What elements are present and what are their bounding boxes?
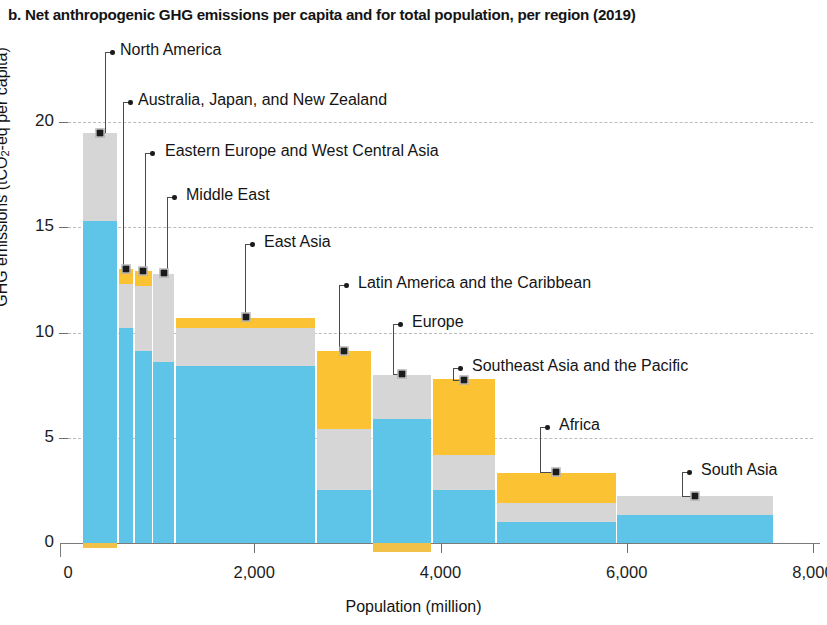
- bar-top-marker: [397, 370, 406, 379]
- bar-top-marker: [460, 376, 469, 385]
- callout-label[interactable]: Latin America and the Caribbean: [358, 274, 591, 292]
- bar-middle-east[interactable]: [153, 122, 174, 543]
- leader-line-vertical: [339, 285, 340, 351]
- bar-top-marker: [122, 265, 131, 274]
- leader-line-vertical: [682, 472, 683, 496]
- bar-segment-grey: [135, 286, 152, 351]
- leader-line-vertical: [123, 102, 124, 269]
- bar-southeast-asia-and-the-pacific[interactable]: [433, 122, 496, 543]
- y-axis-title: GHG emissions (tCO2-eq per capita): [0, 0, 11, 357]
- x-tick-label: 4,000: [420, 563, 461, 582]
- bar-segment-grey: [317, 429, 371, 490]
- callout-dot: [172, 195, 177, 200]
- bar-top-marker: [691, 492, 700, 501]
- callout-label[interactable]: Africa: [559, 416, 600, 434]
- bar-top-marker: [241, 313, 250, 322]
- callout-dot: [687, 470, 692, 475]
- y-tick-label: 15: [8, 216, 54, 236]
- callout-dot: [344, 283, 349, 288]
- x-tick-label: 2,000: [234, 563, 275, 582]
- bar-top-marker: [552, 468, 561, 477]
- bar-segment-blue: [497, 522, 615, 543]
- y-tick-mark: [59, 227, 68, 228]
- bar-segment-negative: [373, 543, 431, 552]
- y-tick-label: 0: [8, 532, 54, 552]
- leader-line-vertical: [453, 368, 454, 380]
- callout-label[interactable]: Australia, Japan, and New Zealand: [138, 91, 387, 109]
- bar-segment-grey: [83, 133, 117, 221]
- y-tick-mark: [59, 438, 68, 439]
- leader-line-vertical: [245, 244, 246, 317]
- bar-segment-grey: [176, 328, 315, 366]
- bar-segment-blue: [153, 362, 174, 543]
- bar-segment-blue: [317, 490, 371, 543]
- callout-dot: [398, 322, 403, 327]
- callout-dot: [458, 366, 463, 371]
- plot-area: [68, 122, 813, 543]
- callout-dot: [128, 100, 133, 105]
- leader-line-vertical: [540, 427, 541, 472]
- callout-label[interactable]: Europe: [412, 313, 464, 331]
- bar-segment-grey: [153, 274, 174, 362]
- callout-dot: [150, 151, 155, 156]
- leader-line-vertical: [145, 153, 146, 271]
- bar-segment-yellow: [433, 379, 496, 455]
- bar-top-marker: [139, 267, 148, 276]
- leader-line-vertical: [393, 324, 394, 374]
- bar-segment-grey: [497, 503, 615, 522]
- y-tick-label: 5: [8, 427, 54, 447]
- callout-dot: [545, 425, 550, 430]
- bar-segment-blue: [617, 515, 773, 543]
- x-tick-label: 8,000: [792, 563, 827, 582]
- leader-line-vertical: [167, 197, 168, 273]
- axis-corner: [60, 543, 61, 557]
- y-tick-label: 20: [8, 111, 54, 131]
- bar-eastern-europe-and-west-central-asia[interactable]: [135, 122, 152, 543]
- bar-top-marker: [159, 269, 168, 278]
- callout-dot: [250, 242, 255, 247]
- callout-label[interactable]: East Asia: [264, 233, 331, 251]
- bar-segment-yellow: [317, 351, 371, 429]
- chart-figure: b. Net anthropogenic GHG emissions per c…: [0, 0, 827, 625]
- callout-label[interactable]: South Asia: [701, 461, 778, 479]
- callout-label[interactable]: Southeast Asia and the Pacific: [472, 357, 688, 375]
- bar-segment-blue: [135, 351, 152, 543]
- bar-segment-blue: [433, 490, 496, 543]
- bar-segment-blue: [176, 366, 315, 543]
- bar-segment-blue: [119, 328, 133, 543]
- bar-australia-japan-and-new-zealand[interactable]: [119, 122, 133, 543]
- y-tick-mark: [59, 333, 68, 334]
- bar-segment-negative: [83, 543, 117, 548]
- bar-latin-america-and-the-caribbean[interactable]: [317, 122, 371, 543]
- bar-segment-blue: [83, 221, 117, 543]
- bar-segment-yellow: [497, 473, 615, 504]
- bar-south-asia[interactable]: [617, 122, 773, 543]
- callout-label[interactable]: Middle East: [186, 186, 270, 204]
- y-tick-label: 10: [8, 322, 54, 342]
- x-axis-title: Population (million): [0, 598, 827, 616]
- x-tick-label: 0: [63, 563, 72, 582]
- bar-top-marker: [96, 129, 105, 138]
- bar-north-america[interactable]: [83, 122, 117, 543]
- callout-label[interactable]: Eastern Europe and West Central Asia: [165, 142, 439, 160]
- x-tick-mark: [254, 543, 255, 553]
- callout-label[interactable]: North America: [120, 41, 221, 59]
- x-tick-label: 6,000: [606, 563, 647, 582]
- bar-africa[interactable]: [497, 122, 615, 543]
- bar-segment-grey: [119, 284, 133, 328]
- x-tick-mark: [627, 543, 628, 553]
- x-tick-mark: [441, 543, 442, 553]
- bar-segment-blue: [373, 419, 431, 543]
- callout-dot: [110, 50, 115, 55]
- bar-segment-grey: [373, 375, 431, 419]
- bar-segment-grey: [433, 455, 496, 491]
- y-tick-mark: [59, 122, 68, 123]
- leader-line-vertical: [105, 52, 106, 133]
- x-tick-mark: [813, 543, 814, 553]
- bar-top-marker: [340, 347, 349, 356]
- bar-europe[interactable]: [373, 122, 431, 543]
